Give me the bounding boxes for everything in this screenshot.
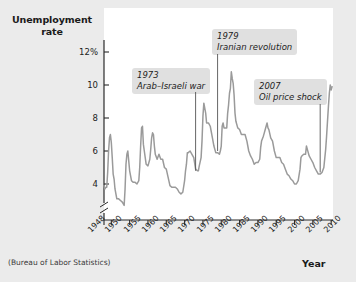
unemployment-rate-chart-figure: Unemployment rate Year (Bureau of Labor …	[0, 0, 356, 282]
axes-layer	[100, 40, 333, 220]
annotation-leader-lines	[196, 54, 321, 172]
chart-svg	[0, 0, 356, 282]
series-layer	[104, 72, 332, 206]
